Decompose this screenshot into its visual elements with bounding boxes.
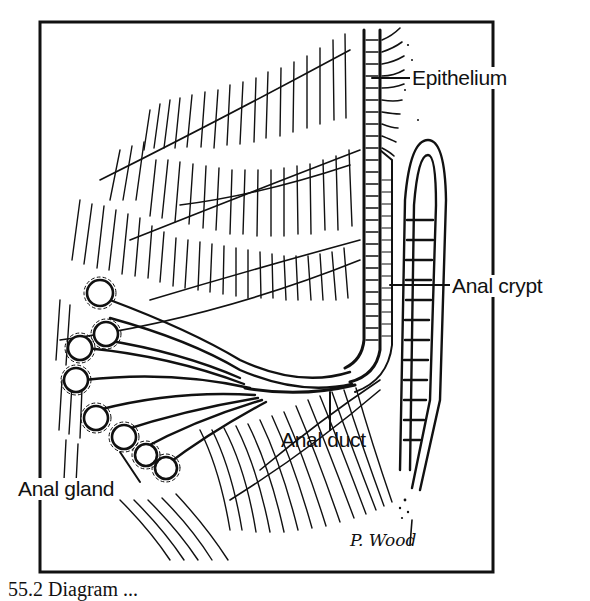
label-anal-gland: Anal gland [16, 478, 116, 500]
outer-crypt-loop [400, 140, 446, 490]
artist-signature: P. Wood [350, 530, 416, 550]
epithelium-column [345, 28, 404, 392]
label-anal-crypt: Anal crypt [450, 275, 544, 297]
anal-gland-lobules [64, 280, 177, 479]
label-anal-duct: Anal duct [279, 429, 368, 451]
crypt-striations [382, 180, 392, 336]
figure-caption: 55.2 Diagram ... [8, 578, 138, 601]
stipple-dots [399, 44, 419, 519]
label-epithelium: Epithelium [410, 67, 509, 89]
epithelium-bristles [382, 28, 404, 156]
